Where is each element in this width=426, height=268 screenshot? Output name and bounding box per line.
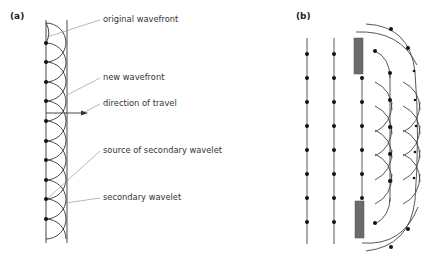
leader-new-wavefront — [67, 78, 100, 95]
outer-arc-side — [415, 72, 418, 200]
panel-a — [46, 20, 100, 243]
secondary-wavelets — [46, 23, 66, 239]
barriers — [354, 38, 364, 238]
outer-arc-bottom-2 — [362, 207, 418, 243]
leader-original-wavefront — [47, 20, 100, 37]
leader-secondary-wavelet — [66, 198, 100, 203]
huygens-diagram — [0, 0, 426, 268]
barrier-top — [354, 38, 363, 74]
diffracted-edge-bottom-1 — [375, 198, 390, 224]
diffracted-edge-top-1 — [375, 51, 390, 78]
leader-direction — [85, 104, 100, 112]
barrier-bottom — [355, 201, 364, 238]
